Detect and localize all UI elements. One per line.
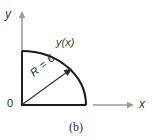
x-axis (93, 102, 134, 109)
quarter-circle-figure: y x y(x) 0 R = 6 (b) (0, 0, 152, 140)
x-axis-arrowhead (127, 102, 134, 109)
y-axis-arrowhead (19, 11, 26, 18)
radius-arrowhead (63, 68, 72, 76)
curve-label: y(x) (56, 37, 74, 48)
figure-canvas (0, 0, 152, 140)
origin-label: 0 (7, 98, 13, 109)
y-axis (19, 11, 26, 51)
y-axis-label: y (5, 8, 11, 20)
figure-caption: (b) (0, 120, 152, 135)
x-axis-label: x (139, 98, 145, 110)
